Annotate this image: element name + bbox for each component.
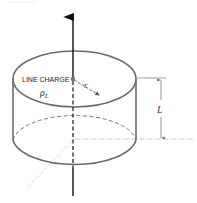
bottom-ellipse-back	[13, 116, 136, 140]
gaussian-cylinder-diagram: LINE CHARGE ρL r L	[0, 0, 197, 203]
rho-label: ρL	[39, 87, 49, 100]
line-charge-label: LINE CHARGE	[22, 76, 70, 83]
length-label: L	[156, 104, 163, 115]
rho-subscript: L	[44, 92, 49, 100]
bottom-ellipse-front	[13, 140, 136, 164]
radius-label: r	[84, 81, 88, 90]
